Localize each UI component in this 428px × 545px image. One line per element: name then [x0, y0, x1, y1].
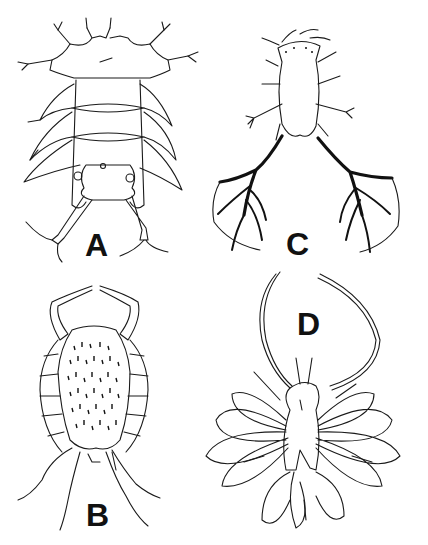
panel-b-drawing	[18, 286, 160, 530]
panel-a-drawing	[18, 18, 198, 262]
panel-c-drawing	[213, 30, 399, 253]
figure-canvas	[0, 0, 428, 545]
panel-label-c: C	[286, 228, 309, 260]
spines	[68, 342, 119, 430]
panel-label-b: B	[86, 499, 109, 531]
panel-label-d: D	[297, 308, 320, 340]
panel-label-a: A	[85, 229, 108, 261]
